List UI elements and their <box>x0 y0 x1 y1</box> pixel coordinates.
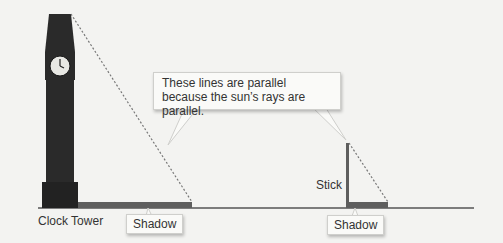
stick-label: Stick <box>316 178 342 192</box>
clock-tower <box>42 14 78 208</box>
callout-pointer-right <box>310 105 346 140</box>
diagram-canvas <box>0 0 503 243</box>
tower-shadow-label: Shadow <box>126 214 183 234</box>
tower-shadow-bar <box>78 202 192 208</box>
stick <box>346 143 349 208</box>
clock-tower-label: Clock Tower <box>38 214 103 228</box>
parallel-rays-callout: These lines are parallel because the sun… <box>153 72 341 110</box>
sun-ray-stick <box>349 143 388 202</box>
stick-shadow-label: Shadow <box>327 215 384 235</box>
